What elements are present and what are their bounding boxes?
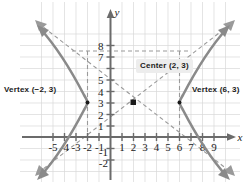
center-label: Center (2, 3) <box>136 59 193 73</box>
y-axis-arrow <box>107 9 115 18</box>
x-axis-label: x <box>237 131 243 143</box>
x-tick-label: 3 <box>142 141 148 153</box>
x-tick-label: 5 <box>165 141 171 153</box>
x-tick-label: -2 <box>83 141 92 153</box>
y-tick-label: 7 <box>98 51 104 63</box>
x-tick-label: 4 <box>154 141 160 153</box>
x-tick-label: 1 <box>119 141 125 153</box>
x-tick-label: 6 <box>177 141 183 153</box>
y-tick-label: -2 <box>99 157 108 169</box>
y-tick-label: 1 <box>98 120 104 132</box>
x-tick-label: 9 <box>211 141 217 153</box>
x-tick-label: 7 <box>188 141 194 153</box>
y-tick-label: 2 <box>98 109 104 121</box>
x-axis-arrow <box>227 133 236 141</box>
vertex-right-label: Vertex (6, 3) <box>192 86 240 94</box>
y-tick-label: 5 <box>98 74 104 86</box>
axes <box>22 9 236 180</box>
y-tick-label: 3 <box>98 97 104 109</box>
x-tick-label: -3 <box>71 141 81 153</box>
vertex-right-point-marker <box>178 101 182 105</box>
center-point-marker <box>131 100 137 106</box>
vertex-left-point-marker <box>86 101 90 105</box>
hyperbola-figure: -5 -4 -3 -2 -1 1 2 3 4 5 6 7 8 9 8 7 5 4… <box>0 0 252 184</box>
y-tick-labels: 8 7 5 4 3 2 1 -1 -2 <box>98 40 108 170</box>
vertex-left-label: Vertex (−2, 3) <box>4 86 56 94</box>
x-tick-label: 2 <box>131 141 137 153</box>
y-axis-label: y <box>114 6 120 18</box>
x-tick-labels: -5 -4 -3 -2 -1 1 2 3 4 5 6 7 8 9 <box>48 141 217 153</box>
x-tick-label: -5 <box>48 141 58 153</box>
y-tick-label: -1 <box>99 146 108 158</box>
y-tick-label: 8 <box>98 40 104 52</box>
y-tick-label: 4 <box>98 86 104 98</box>
